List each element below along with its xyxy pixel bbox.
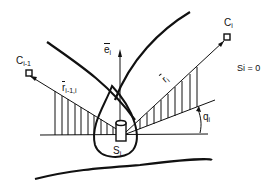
q-i-arc — [198, 109, 201, 133]
label-r-prev-i: ri-1,i — [62, 83, 77, 94]
diagram-drawing — [0, 0, 277, 187]
label-c-i: Ci — [224, 18, 233, 29]
label-e-i: ei — [104, 45, 111, 56]
label-s-i: Si — [113, 146, 121, 157]
r-prev-arrowhead — [30, 76, 37, 81]
curve-right — [115, 12, 190, 100]
cylinder-icon — [116, 121, 126, 142]
q-i-line — [126, 100, 215, 134]
label-condition: Si = 0 — [237, 64, 260, 73]
e-i-arrowhead — [118, 49, 122, 57]
label-c-prev: Ci-1 — [16, 56, 31, 67]
hatching-left — [55, 91, 113, 135]
c-i-square — [224, 34, 230, 40]
ground-curve — [35, 159, 212, 179]
diagram-canvas: Ci-1 Ci ei ri-1,i ri Si qi Si = 0 — [0, 0, 277, 187]
hatching-right — [140, 67, 197, 129]
label-q-i: qi — [203, 112, 210, 123]
curve-left — [47, 42, 135, 120]
c-prev-square — [26, 70, 32, 76]
